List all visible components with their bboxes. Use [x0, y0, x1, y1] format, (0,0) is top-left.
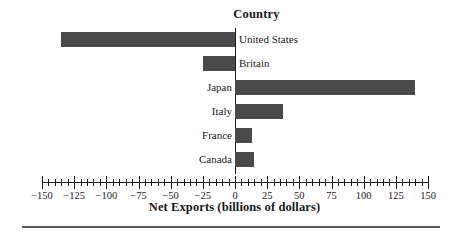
axis-tick-minor	[344, 179, 345, 186]
axis-tick-major	[364, 176, 365, 189]
axis-tick-major	[74, 176, 75, 189]
axis-tick-minor	[338, 179, 339, 186]
axis-tick-minor	[151, 179, 152, 186]
axis-tick-minor	[209, 179, 210, 186]
axis-tick-minor	[325, 179, 326, 186]
axis-tick-minor	[312, 179, 313, 186]
bar-row: Japan	[0, 76, 457, 100]
axis-tick-minor	[132, 179, 133, 186]
axis-tick-major	[139, 176, 140, 189]
axis-tick-minor	[184, 179, 185, 186]
axis-tick-minor	[68, 179, 69, 186]
axis-tick-minor	[293, 179, 294, 186]
axis-tick-minor	[164, 179, 165, 186]
axis-tick-minor	[248, 179, 249, 186]
axis-tick-major	[267, 176, 268, 189]
axis-tick-minor	[357, 179, 358, 186]
category-label: Canada	[199, 150, 232, 168]
axis-tick-minor	[261, 179, 262, 186]
axis-tick-minor	[113, 179, 114, 186]
axis-tick-minor	[100, 179, 101, 186]
axis-tick-minor	[274, 179, 275, 186]
bar	[235, 152, 254, 167]
x-axis: −150−125−100−75−50−250255075100125150	[0, 173, 457, 197]
bar	[235, 128, 252, 143]
plot-area: United StatesBritainJapanItalyFranceCana…	[0, 28, 457, 173]
bar-row: United States	[0, 28, 457, 52]
axis-tick-minor	[196, 179, 197, 186]
axis-tick-minor	[190, 179, 191, 186]
axis-tick-minor	[409, 179, 410, 186]
axis-tick-minor	[61, 179, 62, 186]
category-label: Britain	[239, 54, 270, 72]
axis-tick-minor	[319, 179, 320, 186]
chart-title: Country	[28, 7, 457, 22]
axis-tick-minor	[306, 179, 307, 186]
bar	[203, 56, 235, 71]
axis-tick-major	[106, 176, 107, 189]
axis-tick-minor	[81, 179, 82, 186]
axis-tick-minor	[48, 179, 49, 186]
axis-tick-minor	[241, 179, 242, 186]
axis-tick-major	[428, 176, 429, 189]
axis-tick-major	[203, 176, 204, 189]
bar-row: Canada	[0, 148, 457, 172]
bar-row: France	[0, 124, 457, 148]
category-label: Japan	[207, 78, 232, 96]
axis-tick-minor	[119, 179, 120, 186]
axis-tick-major	[235, 176, 236, 189]
axis-tick-major	[332, 176, 333, 189]
axis-tick-minor	[216, 179, 217, 186]
category-label: France	[202, 126, 232, 144]
chart-figure: Country United StatesBritainJapanItalyFr…	[0, 0, 457, 236]
category-label: United States	[239, 30, 298, 48]
footer-divider	[22, 226, 440, 228]
x-axis-title: Net Exports (billions of dollars)	[6, 200, 457, 215]
axis-tick-major	[42, 176, 43, 189]
axis-tick-minor	[55, 179, 56, 186]
axis-tick-minor	[402, 179, 403, 186]
axis-tick-minor	[415, 179, 416, 186]
axis-tick-minor	[422, 179, 423, 186]
category-label: Italy	[212, 102, 232, 120]
axis-tick-minor	[93, 179, 94, 186]
axis-tick-major	[396, 176, 397, 189]
bar-row: Italy	[0, 100, 457, 124]
axis-tick-minor	[177, 179, 178, 186]
axis-tick-minor	[286, 179, 287, 186]
axis-tick-minor	[222, 179, 223, 186]
axis-tick-minor	[377, 179, 378, 186]
axis-tick-minor	[383, 179, 384, 186]
axis-tick-minor	[351, 179, 352, 186]
axis-tick-minor	[126, 179, 127, 186]
bar	[61, 32, 235, 47]
axis-tick-major	[299, 176, 300, 189]
axis-tick-minor	[229, 179, 230, 186]
axis-tick-minor	[254, 179, 255, 186]
axis-tick-minor	[87, 179, 88, 186]
axis-tick-minor	[145, 179, 146, 186]
axis-tick-major	[171, 176, 172, 189]
axis-tick-minor	[389, 179, 390, 186]
bar	[235, 104, 283, 119]
bar-row: Britain	[0, 52, 457, 76]
axis-tick-minor	[370, 179, 371, 186]
bar	[235, 80, 415, 95]
axis-tick-minor	[280, 179, 281, 186]
axis-tick-minor	[158, 179, 159, 186]
